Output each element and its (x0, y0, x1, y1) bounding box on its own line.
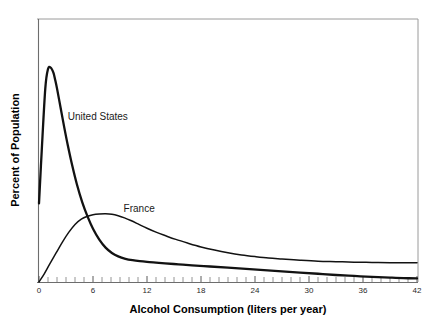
x-tick-label: 0 (37, 286, 42, 295)
series-annotation-france: France (124, 203, 156, 214)
x-axis-minor-ticks (48, 277, 408, 282)
chart-canvas: 0 6 12 18 24 30 36 42 United States Fran… (0, 0, 444, 328)
plot-frame (37, 19, 418, 282)
x-tick-label: 24 (251, 286, 260, 295)
x-tick-label: 36 (359, 286, 368, 295)
y-axis-title: Percent of Population (9, 93, 21, 207)
x-axis-tick-labels: 0 6 12 18 24 30 36 42 (37, 286, 422, 295)
x-tick-label: 18 (197, 286, 206, 295)
series-line-france (39, 214, 417, 282)
series-line-united-states (39, 67, 417, 279)
series-annotation-united-states: United States (68, 111, 128, 122)
x-tick-label: 30 (305, 286, 314, 295)
x-tick-label: 6 (91, 286, 96, 295)
x-axis-title: Alcohol Consumption (liters per year) (130, 303, 327, 315)
x-tick-label: 12 (143, 286, 152, 295)
chart-figure: 0 6 12 18 24 30 36 42 United States Fran… (0, 0, 444, 328)
x-tick-label: 42 (413, 286, 422, 295)
